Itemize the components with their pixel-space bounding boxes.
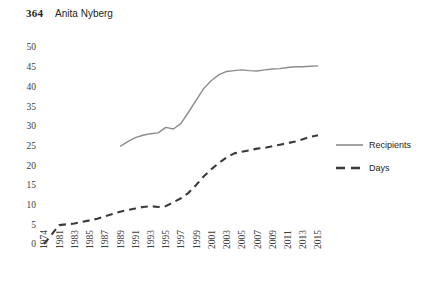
x-axis: 1974198119831985198719891991199319951997…: [39, 230, 323, 249]
x-axis-tick-label: 1989: [116, 230, 126, 249]
x-axis-tick-label: 2011: [283, 230, 293, 249]
x-axis-tick-label: 2009: [268, 230, 278, 249]
y-axis-tick-label: 35: [27, 102, 37, 112]
y-axis-tick-label: 20: [27, 161, 37, 171]
y-axis-tick-label: 0: [31, 239, 36, 249]
series-line-days: [44, 135, 318, 244]
x-axis-tick-label: 2013: [298, 230, 308, 249]
y-axis-tick-label: 5: [31, 220, 36, 230]
x-axis-tick-label: 1983: [70, 230, 80, 249]
x-axis-tick-label: 2015: [313, 230, 323, 249]
legend-label-recipients: Recipients: [369, 140, 412, 150]
data-series: [44, 66, 318, 244]
legend-label-days: Days: [369, 163, 390, 173]
y-axis-tick-label: 40: [27, 82, 37, 92]
y-axis-tick-label: 25: [27, 141, 37, 151]
x-axis-tick-label: 2005: [237, 230, 247, 249]
y-axis-tick-label: 45: [27, 62, 37, 72]
y-axis: 05101520253035404550: [27, 42, 37, 249]
x-axis-tick-label: 1995: [161, 230, 171, 249]
x-axis-tick-label: 1985: [85, 230, 95, 249]
x-axis-tick-label: 2003: [222, 230, 232, 249]
x-axis-tick-label: 1993: [146, 230, 156, 249]
chart-canvas: 05101520253035404550 1974198119831985198…: [0, 0, 432, 285]
x-axis-tick-label: 1981: [55, 230, 65, 249]
y-axis-tick-label: 50: [27, 42, 37, 52]
y-axis-tick-label: 15: [27, 180, 37, 190]
x-axis-tick-label: 1991: [131, 230, 141, 249]
series-line-recipients: [120, 66, 318, 146]
y-axis-tick-label: 10: [27, 200, 37, 210]
chart-legend: RecipientsDays: [336, 140, 412, 173]
line-chart-figure: 05101520253035404550 1974198119831985198…: [0, 0, 432, 285]
x-axis-tick-label: 1999: [192, 230, 202, 249]
y-axis-tick-label: 30: [27, 121, 37, 131]
x-axis-tick-label: 2007: [253, 230, 263, 249]
x-axis-tick-label: 1997: [176, 230, 186, 249]
x-axis-tick-label: 2001: [207, 230, 217, 249]
x-axis-tick-label: 1987: [100, 230, 110, 249]
